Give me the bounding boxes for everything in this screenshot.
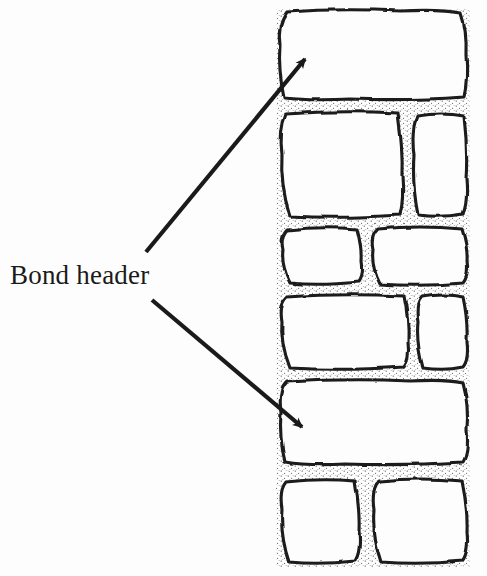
course-5-bond-header xyxy=(280,380,467,465)
brick-4-right xyxy=(417,295,467,369)
figure-canvas: Bond header xyxy=(0,0,487,576)
brick-6-left xyxy=(281,480,359,564)
brick-3-left xyxy=(282,228,361,285)
bond-header-label: Bond header xyxy=(10,258,190,292)
course-1-bond-header xyxy=(279,10,466,100)
course-2-stretchers xyxy=(281,112,467,218)
brick-2-left xyxy=(281,112,403,218)
brick-header-top xyxy=(279,10,466,100)
brick-header-lower xyxy=(280,380,467,465)
course-4-stretchers xyxy=(281,295,467,370)
brick-3-right xyxy=(372,227,467,285)
brick-6-right xyxy=(373,479,467,563)
brick-2-right xyxy=(413,114,467,216)
brick-4-left xyxy=(281,295,408,370)
